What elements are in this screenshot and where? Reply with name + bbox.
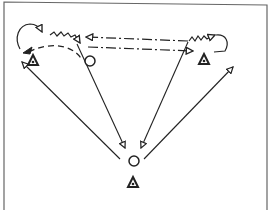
curved-run-right <box>214 35 227 52</box>
pass-bottom-to-right <box>144 67 233 159</box>
marker-circle-bottom <box>129 156 139 166</box>
dashed-run-arrowhead <box>23 47 32 54</box>
marker-circle-left <box>85 56 95 66</box>
pass-bottom-to-left <box>22 62 120 159</box>
player-triangle-left <box>28 55 38 65</box>
drill-diagram <box>0 0 269 210</box>
player-triangle-bottom <box>128 177 138 187</box>
frame-border <box>4 2 267 210</box>
drill-canvas <box>0 0 269 210</box>
pass-right-to-left <box>86 37 188 41</box>
curved-run-top-left <box>17 24 42 49</box>
run-left-to-bottom <box>77 44 125 148</box>
player-triangle-right <box>199 54 209 64</box>
dribble-left-zigzag <box>50 32 80 43</box>
dribble-right-zigzag <box>189 35 215 41</box>
run-right-to-bottom <box>141 42 188 148</box>
pass-left-to-right <box>88 47 193 51</box>
dashed-run-left <box>29 46 82 60</box>
